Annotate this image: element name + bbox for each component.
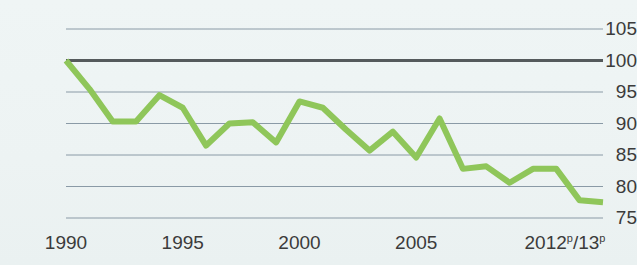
x-axis-tick-label: 1995 bbox=[162, 233, 204, 252]
gridlines bbox=[66, 29, 603, 218]
x-axis-tick-label: 1990 bbox=[45, 233, 87, 252]
data-line bbox=[66, 61, 603, 203]
x-axis-tick-label: 2000 bbox=[278, 233, 320, 252]
line-chart: 1051009590858075 19901995200020052012p/1… bbox=[0, 0, 637, 265]
data-series-group bbox=[66, 61, 603, 203]
chart-plot-area bbox=[0, 0, 637, 265]
x-axis-tick-label: 2012p/13p bbox=[525, 233, 606, 252]
x-axis-tick-label: 2005 bbox=[395, 233, 437, 252]
